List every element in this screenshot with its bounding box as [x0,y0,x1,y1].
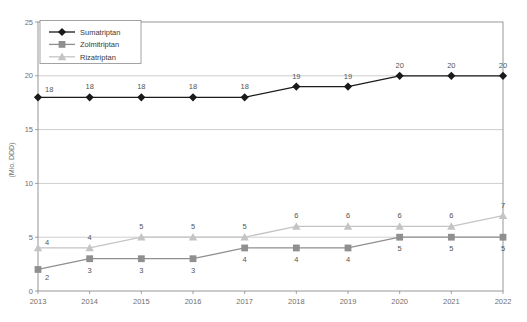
y-axis-tick-label: 20 [25,71,33,80]
y-axis-tick-label: 25 [25,18,33,27]
data-point-label: 6 [449,211,453,220]
chart-canvas: 0510152025 20132014201520162017201820192… [0,0,527,322]
legend-item-label: Sumatriptan [80,28,120,37]
gridlines-group [38,76,503,237]
data-point-label: 18 [85,82,93,91]
data-point-label: 4 [346,255,350,264]
x-axis-tick-labels: 2013201420152016201720182019202020212022 [30,297,512,306]
data-point-label: 18 [137,82,145,91]
data-point-label: 6 [346,211,350,220]
data-point-label: 4 [294,255,298,264]
y-axis-tick-label: 15 [25,125,33,134]
x-axis-tick-label: 2018 [288,297,305,306]
series-sumatriptan [34,72,507,102]
data-point-marker [35,266,42,273]
data-point-label: 3 [191,266,195,275]
data-point-marker [293,245,300,252]
data-point-marker [241,93,249,101]
x-tick-marks [38,291,503,294]
legend-group: SumatriptanZolmitriptanRizatriptan [49,28,120,62]
legend-item-label: Rizatriptan [80,53,116,62]
data-point-marker [396,234,403,241]
data-point-label: 3 [139,266,143,275]
data-point-label: 4 [88,233,92,242]
x-axis-tick-label: 2013 [30,297,47,306]
x-axis-tick-label: 2016 [185,297,202,306]
data-point-label: 5 [501,244,505,253]
y-axis-tick-label: 5 [29,233,33,242]
line-chart: 0510152025 20132014201520162017201820192… [0,0,527,322]
x-axis-tick-label: 2019 [340,297,357,306]
x-axis-tick-label: 2014 [81,297,98,306]
y-axis-tick-labels: 0510152025 [25,18,33,296]
data-point-marker [344,82,352,90]
x-axis-tick-label: 2020 [391,297,408,306]
data-point-label: 3 [88,266,92,275]
data-point-label: 6 [294,211,298,220]
legend-item-label: Zolmitriptan [80,40,119,49]
data-point-label: 2 [45,273,49,282]
data-point-label: 20 [499,61,507,70]
data-point-label: 19 [344,72,352,81]
data-point-label: 18 [45,85,53,94]
data-point-marker [241,245,248,252]
series-line [38,237,503,269]
data-point-marker [447,72,455,80]
series-zolmitriptan [35,234,507,273]
y-axis-title: (Mio. DDD) [8,143,16,178]
data-point-label: 6 [398,211,402,220]
data-point-marker [345,245,352,252]
data-point-marker [292,82,300,90]
data-point-marker [499,72,507,80]
data-point-marker [190,255,197,262]
data-point-label: 4 [45,238,49,247]
data-point-marker [396,72,404,80]
data-point-label: 18 [240,82,248,91]
data-point-label: 19 [292,72,300,81]
x-axis-tick-label: 2022 [495,297,512,306]
legend-marker-square-icon [59,41,66,48]
data-point-label: 7 [501,201,505,210]
data-point-marker [137,93,145,101]
x-axis-tick-label: 2021 [443,297,460,306]
series-line [38,76,503,98]
data-point-marker [499,211,507,219]
data-point-marker [34,93,42,101]
y-axis-tick-label: 0 [29,287,33,296]
x-axis-tick-label: 2017 [236,297,253,306]
data-point-label: 20 [447,61,455,70]
series-rizatriptan [34,211,507,251]
y-axis-tick-label: 10 [25,179,33,188]
data-point-marker [138,255,145,262]
data-point-marker [189,93,197,101]
data-point-marker [448,234,455,241]
data-point-label: 5 [191,222,195,231]
data-point-label: 5 [398,244,402,253]
data-point-label: 5 [449,244,453,253]
data-point-label: 18 [189,82,197,91]
data-labels-group: 1818181818191920202023334445554455566667 [45,61,507,283]
data-point-label: 5 [243,222,247,231]
data-series-group [34,72,507,273]
x-axis-tick-label: 2015 [133,297,150,306]
data-point-marker [86,93,94,101]
data-point-label: 5 [139,222,143,231]
series-line [38,216,503,248]
data-point-marker [500,234,507,241]
data-point-marker [86,255,93,262]
data-point-label: 20 [395,61,403,70]
data-point-label: 4 [243,255,247,264]
